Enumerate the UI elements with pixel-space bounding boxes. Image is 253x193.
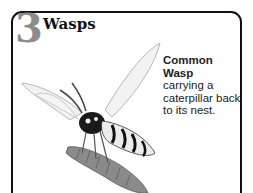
caption-heading-2: Wasp — [163, 67, 243, 80]
caption-heading-1: Common — [163, 54, 243, 67]
illustration-caption: Common Wasp carrying a caterpillar back … — [163, 54, 243, 117]
section-title: Wasps — [43, 15, 96, 33]
wasp-illustration — [20, 35, 170, 193]
caption-body: carrying a caterpillar back to its nest. — [163, 79, 240, 116]
